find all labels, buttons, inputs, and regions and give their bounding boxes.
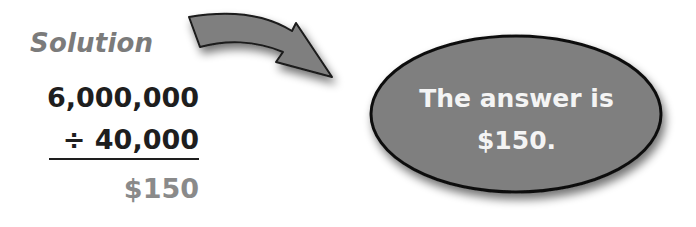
quotient-value: $150 [124,173,199,204]
solution-heading: Solution [30,28,153,58]
divisor-value: ÷ 40,000 [63,124,199,155]
answer-bubble: The answer is $150. [371,78,662,162]
curved-arrow-icon [189,14,332,77]
division-line [49,158,199,160]
answer-line-2: $150. [371,120,662,162]
answer-line-1: The answer is [371,78,662,120]
dividend-value: 6,000,000 [47,82,199,113]
